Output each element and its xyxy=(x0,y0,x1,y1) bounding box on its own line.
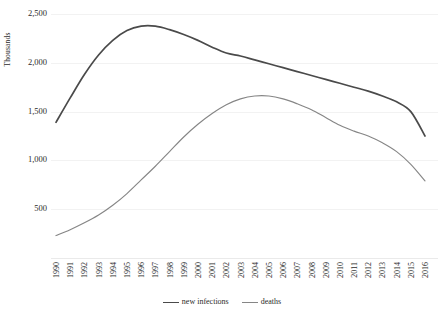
x-tick-label-2005: 2005 xyxy=(265,262,275,296)
x-tick-label-1993: 1993 xyxy=(95,262,105,296)
x-tick-label-2014: 2014 xyxy=(393,262,403,296)
series-lines xyxy=(51,14,438,258)
legend-item-label: deaths xyxy=(261,298,281,306)
series-line-new-infections xyxy=(56,26,425,136)
line-chart: Thousands 5001,0001,5002,0002,500 199019… xyxy=(0,0,444,314)
legend-item-label: new infections xyxy=(182,298,229,306)
x-tick-label-1990: 1990 xyxy=(52,262,62,296)
legend-swatch-icon xyxy=(242,302,258,303)
x-tick-label-2010: 2010 xyxy=(336,262,346,296)
x-tick-label-1998: 1998 xyxy=(166,262,176,296)
legend-item-deaths[interactable]: deaths xyxy=(242,298,281,306)
x-tick-label-2006: 2006 xyxy=(279,262,289,296)
x-tick-label-2016: 2016 xyxy=(421,262,431,296)
x-tick-label-1997: 1997 xyxy=(151,262,161,296)
x-tick-label-1991: 1991 xyxy=(66,262,76,296)
x-tick-label-2008: 2008 xyxy=(308,262,318,296)
x-tick-label-2001: 2001 xyxy=(208,262,218,296)
x-tick-label-1996: 1996 xyxy=(137,262,147,296)
x-tick-label-2011: 2011 xyxy=(350,262,360,296)
x-tick-label-2003: 2003 xyxy=(237,262,247,296)
legend-item-new-infections[interactable]: new infections xyxy=(163,298,229,306)
y-tick-label: 1,500 xyxy=(1,107,47,116)
y-tick-label: 2,000 xyxy=(1,58,47,67)
x-tick-label-1994: 1994 xyxy=(109,262,119,296)
y-tick-label: 500 xyxy=(1,204,47,213)
x-tick-label-2000: 2000 xyxy=(194,262,204,296)
series-line-deaths xyxy=(56,96,425,236)
x-tick-label-2002: 2002 xyxy=(222,262,232,296)
x-axis-tick-labels: 1990199119921993199419951996199719981999… xyxy=(51,258,438,294)
x-tick-label-2013: 2013 xyxy=(378,262,388,296)
y-axis-tick-labels: 5001,0001,5002,0002,500 xyxy=(0,0,47,314)
plot-area xyxy=(51,14,438,258)
x-tick-label-1999: 1999 xyxy=(180,262,190,296)
x-tick-label-2007: 2007 xyxy=(293,262,303,296)
x-tick-label-1992: 1992 xyxy=(80,262,90,296)
y-tick-label: 2,500 xyxy=(1,9,47,18)
x-tick-label-2009: 2009 xyxy=(322,262,332,296)
chart-legend: new infectionsdeaths xyxy=(0,295,444,309)
y-tick-label: 1,000 xyxy=(1,155,47,164)
x-tick-label-2004: 2004 xyxy=(251,262,261,296)
x-tick-label-1995: 1995 xyxy=(123,262,133,296)
x-tick-label-2015: 2015 xyxy=(407,262,417,296)
x-tick-label-2012: 2012 xyxy=(364,262,374,296)
legend-swatch-icon xyxy=(163,302,179,303)
